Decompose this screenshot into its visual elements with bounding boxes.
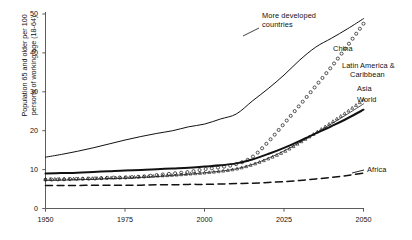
series-marker bbox=[273, 133, 276, 136]
series-marker bbox=[251, 155, 254, 158]
series-label-line1: Asia bbox=[357, 85, 372, 94]
series-marker bbox=[347, 109, 350, 112]
figure-caption bbox=[0, 232, 412, 240]
series-marker bbox=[343, 112, 346, 115]
series-marker bbox=[289, 114, 292, 117]
series-marker bbox=[285, 119, 288, 122]
data-series-group bbox=[44, 19, 365, 186]
x-tick-label: 2025 bbox=[264, 215, 304, 224]
series-line bbox=[46, 104, 364, 181]
series-marker bbox=[355, 32, 358, 35]
series-label-line2: countries bbox=[262, 21, 316, 30]
series-marker bbox=[198, 168, 201, 171]
series-marker bbox=[297, 105, 300, 108]
y-tick-label: 0 bbox=[0, 204, 38, 213]
series-label-china: China bbox=[333, 45, 353, 54]
y-tick-label: 50 bbox=[0, 9, 38, 18]
series-label-line1: Africa bbox=[367, 166, 386, 175]
series-world bbox=[46, 110, 364, 174]
series-marker bbox=[53, 177, 56, 180]
series-marker bbox=[204, 167, 207, 170]
series-label-line2: Caribbean bbox=[350, 71, 395, 80]
series-line bbox=[46, 110, 364, 174]
figure-container: Population 65 and older per 100 persons … bbox=[0, 0, 412, 240]
series-marker bbox=[301, 100, 304, 103]
series-marker bbox=[339, 115, 342, 118]
series-marker bbox=[317, 81, 320, 84]
series-marker bbox=[269, 138, 272, 141]
series-marker bbox=[321, 76, 324, 79]
series-marker bbox=[336, 57, 339, 60]
series-marker bbox=[305, 95, 308, 98]
series-marker bbox=[351, 37, 354, 40]
series-marker bbox=[333, 62, 336, 65]
x-axis-ticks bbox=[46, 209, 364, 212]
series-label-latin-america-caribbean: Latin America & Caribbean bbox=[342, 62, 395, 80]
series-label-line1: China bbox=[333, 45, 353, 54]
y-tick-label: 40 bbox=[0, 48, 38, 57]
y-tick-label: 20 bbox=[0, 126, 38, 135]
series-label-world: World bbox=[357, 96, 377, 105]
series-marker bbox=[281, 124, 284, 127]
series-marker bbox=[256, 151, 259, 154]
x-tick-label: 2000 bbox=[185, 215, 225, 224]
series-asia bbox=[46, 104, 364, 181]
series-marker bbox=[293, 110, 296, 113]
series-marker bbox=[210, 167, 213, 170]
series-marker bbox=[329, 67, 332, 70]
chart-plot-area bbox=[0, 0, 412, 240]
y-tick-label: 10 bbox=[0, 165, 38, 174]
x-tick-label: 2050 bbox=[344, 215, 384, 224]
series-marker bbox=[325, 72, 328, 75]
series-marker bbox=[309, 91, 312, 94]
series-marker bbox=[351, 106, 354, 109]
series-marker bbox=[261, 147, 264, 150]
x-tick-label: 1975 bbox=[105, 215, 145, 224]
x-tick-label: 1950 bbox=[26, 215, 66, 224]
series-label-africa: Africa bbox=[367, 166, 386, 175]
series-marker bbox=[313, 86, 316, 89]
series-label-asia: Asia bbox=[357, 85, 372, 94]
series-marker bbox=[358, 27, 361, 30]
series-marker bbox=[277, 128, 280, 131]
series-marker bbox=[175, 173, 178, 176]
series-marker bbox=[265, 142, 268, 145]
series-marker bbox=[362, 22, 365, 25]
series-label-more-developed-countries: More developed countries bbox=[262, 12, 316, 30]
series-marker bbox=[192, 170, 195, 173]
y-tick-label: 30 bbox=[0, 87, 38, 96]
series-label-line1: World bbox=[357, 96, 377, 105]
